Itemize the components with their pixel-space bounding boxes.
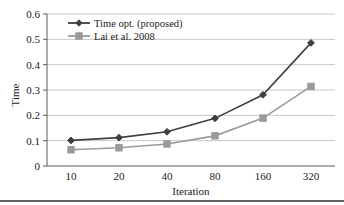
data-point-marker xyxy=(68,147,74,153)
x-tick-label: 80 xyxy=(210,170,222,182)
data-point-marker xyxy=(116,145,122,151)
y-tick-label: 0.2 xyxy=(26,109,40,121)
line-chart: 00.10.20.30.40.50.6 10204080160320 Time … xyxy=(0,0,344,205)
data-point-marker xyxy=(212,133,218,139)
data-point-marker xyxy=(260,115,266,121)
data-point-marker xyxy=(308,83,314,89)
y-tick-label: 0.1 xyxy=(26,135,40,147)
x-tick-label: 160 xyxy=(255,170,272,182)
y-tick-label: 0.4 xyxy=(26,59,40,71)
legend-marker xyxy=(76,33,82,39)
y-tick-label: 0.3 xyxy=(26,84,40,96)
y-axis-label: Time xyxy=(9,83,21,106)
x-tick-label: 320 xyxy=(303,170,320,182)
x-axis-label: Iteration xyxy=(172,185,210,197)
y-axis-ticks: 00.10.20.30.40.50.6 xyxy=(26,8,47,172)
y-tick-label: 0.6 xyxy=(26,8,40,20)
x-tick-label: 40 xyxy=(162,170,174,182)
x-axis-ticks: 10204080160320 xyxy=(66,170,320,182)
legend-label: Time opt. (proposed) xyxy=(94,18,183,30)
y-tick-label: 0 xyxy=(35,160,41,172)
chart-figure: 00.10.20.30.40.50.6 10204080160320 Time … xyxy=(0,0,344,205)
data-point-marker xyxy=(164,141,170,147)
x-tick-label: 20 xyxy=(114,170,126,182)
y-tick-label: 0.5 xyxy=(26,33,40,45)
legend-label: Lai et al. 2008 xyxy=(94,31,155,42)
x-tick-label: 10 xyxy=(66,170,78,182)
